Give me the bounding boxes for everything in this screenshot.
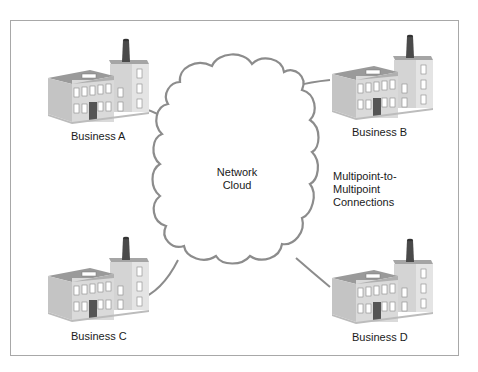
- factory-building-icon: [48, 39, 149, 124]
- cloud-label-line2: Cloud: [210, 179, 264, 192]
- edge-d-cloud: [296, 258, 330, 287]
- note-line2: Multipoint: [333, 183, 397, 196]
- building-business-d: [332, 239, 433, 324]
- cloud-label-line1: Network: [210, 166, 264, 179]
- building-business-a: [48, 39, 149, 124]
- factory-building-icon: [332, 239, 433, 324]
- building-business-c: [48, 237, 149, 322]
- note-line3: Connections: [333, 196, 397, 209]
- factory-building-icon: [48, 237, 149, 322]
- note-line1: Multipoint-to-: [333, 170, 397, 183]
- factory-building-icon: [332, 35, 433, 120]
- business-d-label: Business D: [352, 331, 408, 344]
- network-cloud-shape: [153, 54, 319, 263]
- network-cloud-label: Network Cloud: [210, 166, 264, 192]
- business-c-label: Business C: [71, 330, 127, 343]
- business-b-label: Business B: [352, 126, 407, 139]
- building-business-b: [332, 35, 433, 120]
- business-a-label: Business A: [71, 130, 125, 143]
- connection-type-note: Multipoint-to- Multipoint Connections: [333, 170, 397, 209]
